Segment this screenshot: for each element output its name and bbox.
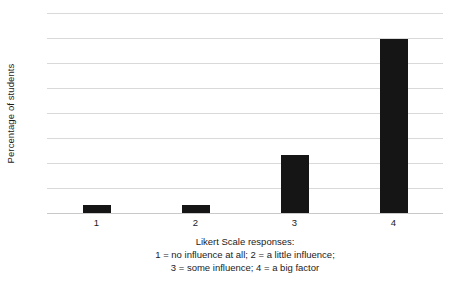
x-tick-label-1: 1 — [47, 215, 146, 231]
bar-slot — [146, 13, 245, 213]
bar-4[interactable] — [380, 39, 408, 213]
y-axis-title-container: Percentage of students — [0, 13, 22, 213]
x-tick-label-4: 4 — [344, 215, 443, 231]
x-axis-line — [47, 213, 443, 214]
plot-area — [47, 13, 443, 213]
bar-slot — [47, 13, 146, 213]
bar-slot — [344, 13, 443, 213]
bar-chart-figure: Percentage of students 1234 Likert Scale… — [0, 0, 454, 289]
bar-slot — [245, 13, 344, 213]
x-tick-label-2: 2 — [146, 215, 245, 231]
bar-3[interactable] — [281, 155, 309, 213]
caption-line-3: 3 = some influence; 4 = a big factor — [47, 261, 443, 274]
caption-line-1: Likert Scale responses: — [47, 235, 443, 248]
x-axis-tick-labels: 1234 — [47, 215, 443, 231]
caption-line-2: 1 = no influence at all; 2 = a little in… — [47, 248, 443, 261]
bar-1[interactable] — [83, 205, 111, 213]
y-axis-title: Percentage of students — [6, 63, 17, 163]
x-tick-label-3: 3 — [245, 215, 344, 231]
bar-2[interactable] — [182, 205, 210, 213]
chart-caption: Likert Scale responses: 1 = no influence… — [47, 235, 443, 274]
bar-series — [47, 13, 443, 213]
